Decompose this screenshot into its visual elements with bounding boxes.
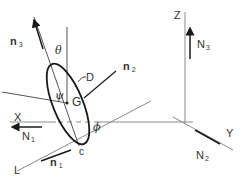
l-label: L — [14, 164, 20, 176]
n2-label: n2 — [123, 60, 136, 73]
theta-label: θ — [55, 44, 62, 57]
d-leader — [78, 77, 86, 82]
y-label: Y — [226, 127, 234, 139]
psi-label: ψ — [55, 89, 64, 102]
n2-capital-label: N2 — [196, 149, 209, 162]
z-label: Z — [174, 9, 181, 21]
n3-arrow — [34, 20, 43, 49]
rolling-disc-diagram: Z Y X L G c D θ ψ ϕ n1 n2 n3 N1 N2 N3 — [0, 0, 248, 180]
n1-label: n1 — [50, 156, 63, 169]
n2-capital-arrow — [195, 130, 220, 144]
x-label: X — [14, 111, 22, 123]
g-label: G — [72, 95, 81, 109]
l-line — [17, 101, 151, 171]
d-label: D — [86, 71, 94, 83]
n3-label: n3 — [10, 35, 23, 48]
c-label: c — [79, 146, 84, 157]
n1-capital-label: N1 — [22, 130, 35, 143]
n3-capital-label: N3 — [197, 38, 210, 51]
phi-label: ϕ — [93, 121, 101, 134]
center-of-mass-point — [66, 102, 69, 105]
